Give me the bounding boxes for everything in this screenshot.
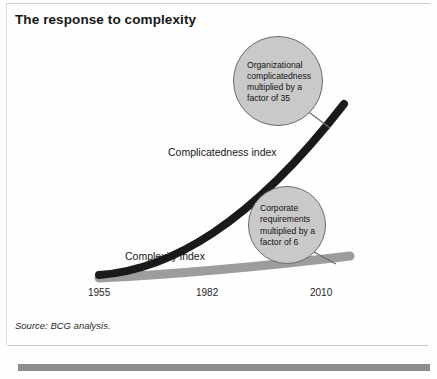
- figure-page: The response to complexity Organizationa…: [0, 0, 437, 379]
- chart-svg: [0, 30, 437, 310]
- top-divider: [6, 3, 430, 4]
- x-axis-tick-1955: 1955: [88, 287, 110, 298]
- footer-bar: [18, 364, 430, 371]
- x-axis-tick-1982: 1982: [196, 287, 218, 298]
- callout-bubble-complexity-text: Corporate requirements multiplied by a f…: [249, 202, 315, 248]
- page-title: The response to complexity: [15, 12, 196, 27]
- callout-bubble-complexity: Corporate requirements multiplied by a f…: [248, 186, 326, 264]
- chart-area: [0, 30, 437, 310]
- callout-bubble-complicatedness: Organizational complicatedness multiplie…: [233, 36, 323, 126]
- series-label-complexity: Complexity index: [125, 250, 205, 262]
- x-axis-tick-2010: 2010: [310, 287, 332, 298]
- bottom-divider: [8, 345, 428, 346]
- series-label-complicatedness: Complicatedness index: [168, 146, 277, 158]
- callout-bubble-complicatedness-text: Organizational complicatedness multiplie…: [234, 58, 311, 105]
- source-note: Source: BCG analysis.: [15, 320, 111, 331]
